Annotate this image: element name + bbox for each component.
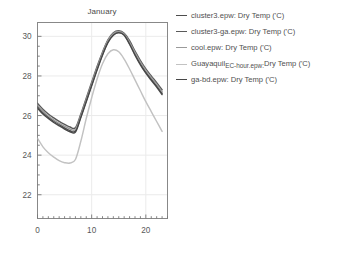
chart-legend: cluster3.epw: Dry Temp ('C) cluster3-ga.… (176, 8, 344, 88)
y-axis-tick-label: 26 (22, 112, 32, 121)
legend-swatch-icon (176, 15, 187, 16)
y-axis-tick-label: 24 (22, 151, 32, 160)
series-line (38, 31, 163, 129)
series-group (38, 31, 163, 163)
x-axis-tick-label: 0 (35, 226, 40, 235)
series-line (38, 32, 163, 132)
legend-item[interactable]: GuayaquilEC-hour.epw:Dry Temp ('C) (176, 56, 344, 72)
x-axis-tick-label: 20 (141, 226, 151, 235)
legend-item[interactable]: ga-bd.epw: Dry Temp ('C) (176, 72, 344, 88)
legend-item[interactable]: cool.epw: Dry Temp ('C) (176, 40, 344, 56)
legend-item-label: cool.epw: Dry Temp ('C) (191, 40, 272, 56)
y-axis-tick-label: 28 (22, 72, 32, 81)
series-line (38, 33, 163, 133)
legend-label-subscript: EC-hour.epw: (225, 62, 264, 69)
legend-label-head: Guayaquil (191, 59, 225, 68)
legend-swatch-icon (176, 47, 187, 48)
legend-label-tail: Dry Temp ('C) (264, 59, 310, 68)
chart-figure: January 222426283001020 cluster3.epw: Dr… (0, 0, 344, 253)
legend-swatch-icon (176, 79, 187, 80)
x-axis-tick-label: 10 (87, 226, 97, 235)
screenshot-root: January 222426283001020 cluster3.epw: Dr… (0, 0, 344, 253)
legend-item[interactable]: cluster3.epw: Dry Temp ('C) (176, 8, 344, 24)
legend-swatch-icon (176, 64, 187, 65)
legend-item[interactable]: cluster3-ga.epw: Dry Temp ('C) (176, 24, 344, 40)
legend-item-label: cluster3.epw: Dry Temp ('C) (191, 8, 284, 24)
legend-swatch-icon (176, 31, 187, 32)
y-axis-tick-label: 22 (22, 191, 32, 200)
legend-item-label: cluster3-ga.epw: Dry Temp ('C) (191, 24, 295, 40)
y-axis-tick-label: 30 (22, 32, 32, 41)
legend-item-label: ga-bd.epw: Dry Temp ('C) (191, 72, 277, 88)
